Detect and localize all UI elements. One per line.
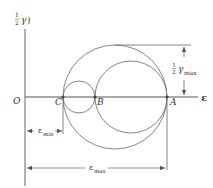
point-b-label: B bbox=[96, 97, 104, 107]
svg-text:2: 2 bbox=[15, 19, 19, 26]
svg-text:2: 2 bbox=[172, 69, 176, 75]
gamma-axis-label: 1 2 γ ) bbox=[15, 11, 31, 26]
eps-min-label: ε min bbox=[38, 126, 54, 137]
point-c-label: C bbox=[55, 97, 62, 107]
svg-text:1: 1 bbox=[15, 11, 19, 18]
svg-text:min: min bbox=[43, 131, 54, 137]
mohr-circle-diagram: 1 2 γ ) ε O C B A 1 2 γ max ε min ε max bbox=[0, 0, 213, 188]
svg-text:max: max bbox=[184, 69, 197, 76]
svg-text:1: 1 bbox=[172, 62, 176, 68]
eps-max-label: ε max bbox=[89, 163, 106, 174]
svg-text:): ) bbox=[27, 15, 31, 25]
svg-text:max: max bbox=[94, 168, 106, 174]
epsilon-axis-label: ε bbox=[201, 92, 207, 103]
origin-label: O bbox=[13, 96, 21, 106]
gamma-max-label: 1 2 γ max bbox=[172, 62, 197, 76]
svg-text:ε: ε bbox=[38, 126, 42, 135]
point-a-label: A bbox=[169, 97, 177, 107]
svg-text:ε: ε bbox=[89, 163, 93, 172]
